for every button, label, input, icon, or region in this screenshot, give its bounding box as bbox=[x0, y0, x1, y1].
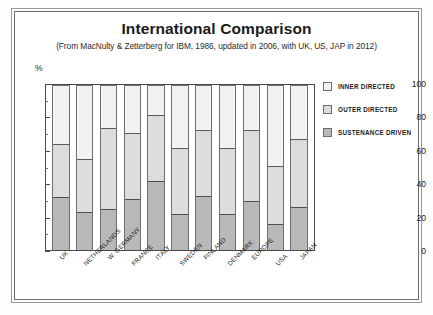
y-tick-major bbox=[45, 84, 50, 85]
segment-outer-directed[interactable] bbox=[244, 130, 259, 201]
chart-page: International Comparison (From MacNulty … bbox=[0, 0, 433, 315]
y-tick-minor bbox=[45, 234, 48, 235]
segment-inner-directed[interactable] bbox=[77, 85, 92, 159]
stacked-bar[interactable] bbox=[124, 85, 141, 250]
segment-outer-directed[interactable] bbox=[196, 130, 211, 196]
stacked-bar[interactable] bbox=[219, 85, 236, 250]
y-tick-major bbox=[45, 251, 50, 252]
stacked-bar[interactable] bbox=[100, 85, 117, 250]
segment-outer-directed[interactable] bbox=[268, 166, 283, 224]
plot-area bbox=[45, 84, 315, 251]
y-tick-minor bbox=[45, 134, 48, 135]
segment-outer-directed[interactable] bbox=[291, 139, 306, 207]
segment-inner-directed[interactable] bbox=[125, 85, 140, 133]
legend-label: SUSTENANCE DRIVEN bbox=[338, 129, 411, 136]
y-tick-major bbox=[45, 218, 50, 219]
bar-slot bbox=[192, 85, 216, 250]
bar-slot bbox=[49, 85, 73, 250]
x-tick-label: UK bbox=[58, 250, 69, 261]
y-tick-major bbox=[45, 151, 50, 152]
bar-slot bbox=[120, 85, 144, 250]
legend-swatch-icon bbox=[323, 128, 332, 137]
x-tick-label: USA bbox=[274, 252, 289, 267]
y-tick-minor bbox=[45, 101, 48, 102]
stacked-bar[interactable] bbox=[147, 85, 164, 250]
segment-sustenance-driven[interactable] bbox=[53, 197, 68, 250]
segment-sustenance-driven[interactable] bbox=[148, 181, 163, 250]
stacked-bar[interactable] bbox=[243, 85, 260, 250]
y-tick-label: 20 bbox=[388, 213, 433, 223]
segment-inner-directed[interactable] bbox=[291, 85, 306, 139]
segment-sustenance-driven[interactable] bbox=[172, 214, 187, 250]
legend-item[interactable]: SUSTENANCE DRIVEN bbox=[323, 128, 418, 137]
stacked-bar[interactable] bbox=[267, 85, 284, 250]
segment-outer-directed[interactable] bbox=[220, 148, 235, 214]
y-tick-major bbox=[45, 184, 50, 185]
segment-outer-directed[interactable] bbox=[125, 133, 140, 199]
y-axis bbox=[0, 0, 45, 315]
chart-subtitle: (From MacNulty & Zetterberg for IBM, 198… bbox=[0, 41, 433, 51]
stacked-bar[interactable] bbox=[76, 85, 93, 250]
segment-inner-directed[interactable] bbox=[53, 85, 68, 144]
segment-sustenance-driven[interactable] bbox=[291, 207, 306, 250]
x-axis-labels: UKNETHERLANDSW. GERMANYFRANCEITALYSWEDEN… bbox=[45, 251, 315, 313]
stacked-bar[interactable] bbox=[52, 85, 69, 250]
bar-slot bbox=[144, 85, 168, 250]
stacked-bar[interactable] bbox=[195, 85, 212, 250]
legend-swatch-icon bbox=[323, 105, 332, 114]
segment-inner-directed[interactable] bbox=[196, 85, 211, 130]
legend-label: INNER DIRECTED bbox=[338, 83, 395, 90]
legend-swatch-icon bbox=[323, 82, 332, 91]
segment-inner-directed[interactable] bbox=[148, 85, 163, 115]
bar-slot bbox=[216, 85, 240, 250]
y-tick-label: 80 bbox=[388, 112, 433, 122]
stacked-bar[interactable] bbox=[290, 85, 307, 250]
segment-outer-directed[interactable] bbox=[77, 159, 92, 212]
bar-slot bbox=[240, 85, 264, 250]
y-tick-minor bbox=[45, 201, 48, 202]
segment-inner-directed[interactable] bbox=[172, 85, 187, 148]
segment-inner-directed[interactable] bbox=[244, 85, 259, 130]
segment-sustenance-driven[interactable] bbox=[77, 212, 92, 250]
bar-slot bbox=[73, 85, 97, 250]
y-tick-label: 0 bbox=[388, 246, 433, 256]
stacked-bar[interactable] bbox=[171, 85, 188, 250]
segment-inner-directed[interactable] bbox=[220, 85, 235, 148]
bar-slot bbox=[168, 85, 192, 250]
y-tick-minor bbox=[45, 168, 48, 169]
segment-outer-directed[interactable] bbox=[53, 144, 68, 197]
segment-outer-directed[interactable] bbox=[172, 148, 187, 214]
y-tick-label: 40 bbox=[388, 179, 433, 189]
chart-title: International Comparison bbox=[0, 20, 433, 38]
segment-outer-directed[interactable] bbox=[148, 115, 163, 181]
segment-inner-directed[interactable] bbox=[268, 85, 283, 166]
y-tick-label: 60 bbox=[388, 146, 433, 156]
bar-group bbox=[46, 85, 314, 250]
bar-slot bbox=[97, 85, 121, 250]
segment-inner-directed[interactable] bbox=[101, 85, 116, 128]
y-tick-major bbox=[45, 117, 50, 118]
y-tick-label: 100 bbox=[388, 79, 433, 89]
bar-slot bbox=[287, 85, 311, 250]
bar-slot bbox=[263, 85, 287, 250]
segment-outer-directed[interactable] bbox=[101, 128, 116, 209]
